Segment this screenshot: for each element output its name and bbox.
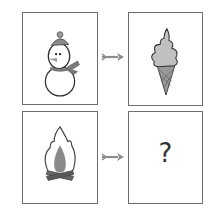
- arrow-right-icon: [101, 152, 125, 162]
- campfire-card: [22, 111, 98, 204]
- question-mark: ?: [129, 138, 202, 168]
- arrow-right-icon: [101, 52, 125, 62]
- ice-cream-cone-icon: [129, 13, 202, 105]
- snowman-icon: [23, 13, 97, 104]
- campfire-icon: [23, 112, 97, 203]
- answer-card: ?: [128, 111, 203, 204]
- ice-cream-card: [128, 12, 203, 106]
- snowman-card: [22, 12, 98, 105]
